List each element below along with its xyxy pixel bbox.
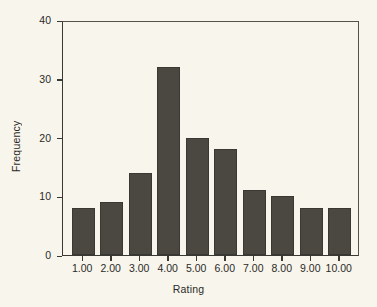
bar (186, 138, 209, 256)
plot-frame (62, 21, 359, 256)
bar (100, 202, 123, 255)
x-tick-mark (167, 256, 168, 261)
y-tick-mark (57, 79, 62, 80)
x-tick-mark (82, 256, 83, 261)
x-axis-title: Rating (0, 283, 377, 295)
x-tick-label: 3.00 (129, 262, 149, 274)
x-tick-label: 1.00 (72, 262, 92, 274)
x-tick-mark (310, 256, 311, 261)
x-tick-label: 9.00 (300, 262, 320, 274)
x-tick-label: 7.00 (243, 262, 263, 274)
y-tick-label: 30 (39, 73, 51, 85)
x-tick-label: 6.00 (215, 262, 235, 274)
y-tick-mark (57, 256, 62, 257)
bar (129, 173, 152, 255)
bar (157, 67, 180, 255)
x-tick-label: 2.00 (101, 262, 121, 274)
y-tick-mark (57, 197, 62, 198)
bar (243, 190, 266, 255)
y-tick-label: 40 (39, 14, 51, 26)
x-tick-label: 4.00 (158, 262, 178, 274)
histogram-chart: Frequency 010203040 1.002.003.004.005.00… (0, 0, 377, 307)
y-tick-label: 10 (39, 190, 51, 202)
x-tick-label: 5.00 (186, 262, 206, 274)
y-tick-mark (57, 21, 62, 22)
x-tick-mark (253, 256, 254, 261)
bar (300, 208, 323, 255)
x-tick-mark (338, 256, 339, 261)
y-axis-title: Frequency (9, 96, 23, 196)
x-tick-mark (139, 256, 140, 261)
x-tick-mark (110, 256, 111, 261)
y-tick-label: 0 (45, 249, 51, 261)
x-tick-label: 10.00 (326, 262, 352, 274)
x-tick-mark (281, 256, 282, 261)
y-tick-mark (57, 138, 62, 139)
y-tick-label: 20 (39, 132, 51, 144)
plot-area (63, 22, 358, 255)
bar (214, 149, 237, 255)
bar (72, 208, 95, 255)
x-tick-mark (224, 256, 225, 261)
bar (328, 208, 351, 255)
bar (271, 196, 294, 255)
x-tick-mark (196, 256, 197, 261)
x-tick-label: 8.00 (272, 262, 292, 274)
